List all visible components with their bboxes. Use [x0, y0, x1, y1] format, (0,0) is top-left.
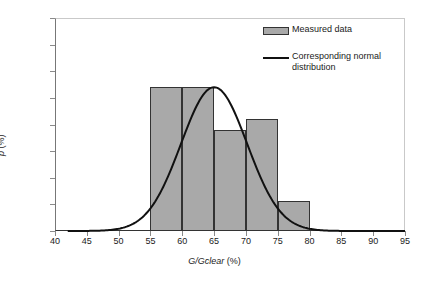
- histogram-figure: 0510152025303540 p (%) 40455055606570758…: [0, 0, 429, 281]
- legend-item-measured-data: Measured data: [263, 24, 402, 35]
- legend-label: Corresponding normal distribution: [292, 51, 402, 73]
- legend-swatch-icon: [263, 27, 289, 35]
- legend-line-icon: [263, 57, 289, 59]
- legend-item-normal-distribution: Corresponding normal distribution: [263, 51, 402, 73]
- legend: Measured data Corresponding normal distr…: [263, 24, 402, 89]
- normal-curve-path: [68, 87, 405, 231]
- legend-label: Measured data: [292, 24, 352, 35]
